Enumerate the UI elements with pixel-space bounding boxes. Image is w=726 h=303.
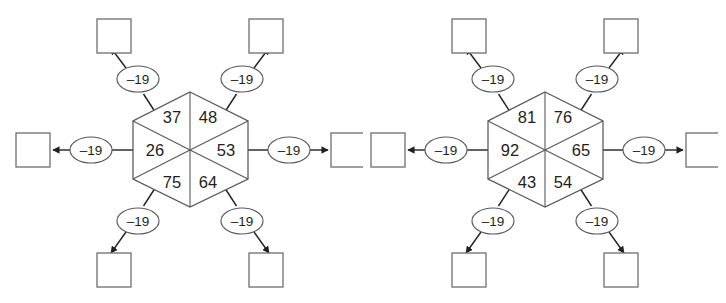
operation-label-bottom-left: –19 xyxy=(127,214,150,229)
operation-label-left: –19 xyxy=(435,143,458,158)
operation-node-bottom-left[interactable]: –19 xyxy=(472,208,514,234)
answer-box-bottom-right[interactable] xyxy=(604,253,638,287)
puzzle-diagram-2: 81 76 65 54 43 92 –19 –19 –19 –19 xyxy=(355,0,718,303)
hexagon-puzzle-figure-1: 37 48 53 64 75 26 –19 –19 –19 –19 xyxy=(0,0,363,303)
operation-node-left[interactable]: –19 xyxy=(70,137,112,163)
sector-value-left: 26 xyxy=(146,141,164,159)
operation-node-left[interactable]: –19 xyxy=(425,137,467,163)
operation-label-right: –19 xyxy=(278,143,301,158)
sector-value-bottom-right: 64 xyxy=(199,173,217,191)
sector-value-bottom-right: 54 xyxy=(554,173,572,191)
worksheet-canvas: 37 48 53 64 75 26 –19 –19 –19 –19 xyxy=(0,0,726,303)
operation-label-top-right: –19 xyxy=(586,72,609,87)
operation-node-top-right[interactable]: –19 xyxy=(221,66,263,92)
connector-op-to-box-bottom-left xyxy=(111,232,126,253)
connector-op-to-box-bottom-left xyxy=(466,232,481,253)
operation-label-top-right: –19 xyxy=(231,72,254,87)
operation-label-top-left: –19 xyxy=(482,72,505,87)
sector-value-top-left: 37 xyxy=(163,108,181,126)
operation-label-top-left: –19 xyxy=(127,72,150,87)
answer-box-left[interactable] xyxy=(371,133,405,167)
sector-value-left: 92 xyxy=(501,141,519,159)
operation-node-bottom-right[interactable]: –19 xyxy=(221,208,263,234)
sector-value-right: 65 xyxy=(572,141,590,159)
operation-node-right[interactable]: –19 xyxy=(268,137,310,163)
hexagon-puzzle-figure-2: 81 76 65 54 43 92 –19 –19 –19 –19 xyxy=(355,0,718,303)
operation-node-top-left[interactable]: –19 xyxy=(117,66,159,92)
answer-box-top-right[interactable] xyxy=(604,19,638,53)
sector-value-top-right: 76 xyxy=(554,108,572,126)
operation-label-bottom-left: –19 xyxy=(482,214,505,229)
sector-value-top-left: 81 xyxy=(518,108,536,126)
connector-op-to-box-bottom-right xyxy=(609,232,624,253)
sector-value-right: 53 xyxy=(217,141,235,159)
answer-box-bottom-right[interactable] xyxy=(249,253,283,287)
operation-label-bottom-right: –19 xyxy=(586,214,609,229)
answer-box-top-right[interactable] xyxy=(249,19,283,53)
answer-box-top-left[interactable] xyxy=(97,19,131,53)
puzzle-diagram-1: 37 48 53 64 75 26 –19 –19 –19 –19 xyxy=(0,0,363,303)
answer-box-right[interactable] xyxy=(686,133,718,167)
answer-box-bottom-left[interactable] xyxy=(452,253,486,287)
operation-label-left: –19 xyxy=(80,143,103,158)
answer-box-bottom-left[interactable] xyxy=(97,253,131,287)
operation-label-bottom-right: –19 xyxy=(231,214,254,229)
operation-node-bottom-left[interactable]: –19 xyxy=(117,208,159,234)
operation-node-top-left[interactable]: –19 xyxy=(472,66,514,92)
sector-value-bottom-left: 43 xyxy=(518,173,536,191)
operation-node-bottom-right[interactable]: –19 xyxy=(576,208,618,234)
operation-node-right[interactable]: –19 xyxy=(623,137,665,163)
operation-label-right: –19 xyxy=(633,143,656,158)
sector-value-bottom-left: 75 xyxy=(163,173,181,191)
connector-op-to-box-bottom-right xyxy=(254,232,269,253)
operation-node-top-right[interactable]: –19 xyxy=(576,66,618,92)
sector-value-top-right: 48 xyxy=(199,108,217,126)
answer-box-top-left[interactable] xyxy=(452,19,486,53)
answer-box-left[interactable] xyxy=(16,133,50,167)
